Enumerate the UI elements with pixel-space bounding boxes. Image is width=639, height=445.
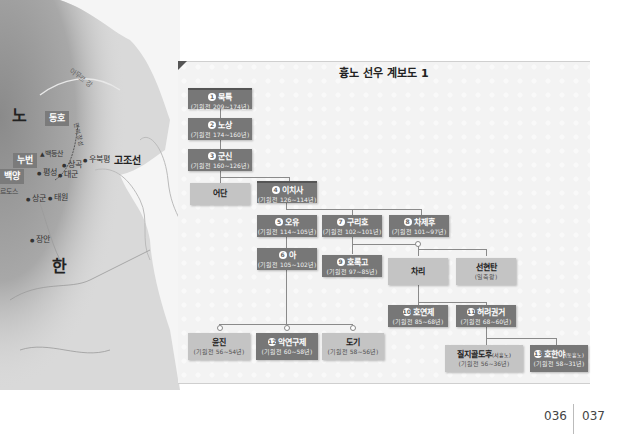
- map-label-ubukpyeong: 우북평: [83, 153, 110, 164]
- node-modu[interactable]: 1묵특 (기원전 209~174년): [188, 88, 252, 109]
- node-name: 군신: [218, 152, 232, 161]
- node-name: 묵특: [218, 93, 232, 102]
- node-name: 윤진: [188, 333, 250, 348]
- map-label-jangan: 장안: [30, 233, 50, 244]
- node-years: (기원전 58~56년): [322, 348, 384, 356]
- node-name: 호한야: [544, 350, 565, 359]
- node-gunsin[interactable]: 3군신 (기원전 160~126년): [188, 149, 252, 171]
- node-yunjin[interactable]: 윤진 (기원전 56~54년): [188, 333, 250, 360]
- page-number-left: 036: [544, 409, 567, 423]
- node-horokgo[interactable]: 9호록고 (기원전 97~85년): [322, 255, 382, 277]
- node-name: 노상: [218, 121, 232, 130]
- node-name: 차리: [388, 258, 448, 285]
- connector: [352, 244, 418, 245]
- node-dogi[interactable]: 도기 (기원전 58~56년): [322, 333, 384, 360]
- node-hoyeonje[interactable]: 10호연제 (기원전 85~68년): [388, 305, 448, 327]
- number-badge: 13: [534, 350, 542, 358]
- page-separator: [573, 404, 574, 434]
- connector: [286, 269, 287, 324]
- number-badge: 11: [467, 308, 475, 316]
- number-badge: 1: [208, 93, 216, 101]
- map-chip-baekyang: 백양: [0, 169, 24, 184]
- node-chari[interactable]: 차리: [388, 258, 448, 285]
- panel-top-border: [178, 61, 590, 62]
- connector: [418, 302, 486, 303]
- node-seonhyeontan[interactable]: 선현탄 (일축왕): [456, 258, 516, 285]
- node-years: (기원전 68~60년): [456, 318, 516, 326]
- node-name: 어단: [190, 183, 250, 205]
- node-years: (기원전 126~114년): [257, 196, 317, 204]
- node-suffix: (서흉노): [492, 352, 511, 358]
- node-name: 도기: [322, 333, 384, 348]
- node-name: 오유: [285, 218, 299, 227]
- number-badge: 12: [268, 338, 276, 346]
- node-name: 선현탄: [456, 258, 516, 273]
- node-name: 호연제: [413, 308, 434, 317]
- node-years: (기원전 160~126년): [188, 162, 252, 170]
- map-label-gojoseon: 고조선: [114, 152, 141, 167]
- node-years: (기원전 114~105년): [257, 228, 317, 236]
- map-label-pyeongseong: 평성: [37, 166, 57, 177]
- connector: [418, 246, 419, 256]
- connector: [486, 325, 487, 345]
- chart-title: 흉노 선우 계보도 1: [178, 64, 590, 80]
- node-years: (기원전 209~174년): [188, 103, 252, 111]
- node-years: (기원전 101~97년): [389, 228, 449, 236]
- map-label-baekdeungsan: 백등산: [40, 148, 63, 158]
- connector: [556, 338, 557, 345]
- panel-bottom-border: [178, 383, 590, 384]
- connector: [286, 209, 422, 210]
- map-label-xiongnu: 노: [12, 102, 27, 126]
- map-chip-donghu: 동호: [45, 111, 69, 126]
- node-name: 차제후: [414, 218, 435, 227]
- node-ichisa[interactable]: 4이치사 (기원전 126~114년): [257, 181, 317, 203]
- map-label-daegun: 대군: [58, 168, 78, 179]
- connector: [486, 249, 487, 256]
- node-name: 질지골도후: [457, 350, 492, 359]
- node-name: 악연구제: [278, 338, 306, 347]
- map-label-ordos: 르도스: [0, 186, 18, 196]
- node-years: (기원전 58~31년): [530, 360, 588, 368]
- node-name: 구리호: [347, 218, 368, 227]
- node-name: 아: [289, 251, 296, 260]
- number-badge: 5: [275, 218, 283, 226]
- node-name: 허려권거: [477, 308, 505, 317]
- node-chajehu[interactable]: 8차제후 (기원전 101~97년): [389, 215, 449, 237]
- connector-node: [284, 325, 290, 331]
- node-nosang[interactable]: 2노상 (기원전 174~160년): [188, 118, 252, 140]
- number-badge: 6: [279, 251, 287, 259]
- connector: [486, 338, 556, 339]
- node-gurihu[interactable]: 7구리호 (기원전 102~101년): [322, 215, 382, 237]
- node-a[interactable]: 6아 (기원전 105~102년): [257, 248, 317, 270]
- node-hohanya[interactable]: 13호한야(동흉노) (기원전 58~31년): [530, 345, 588, 372]
- node-name: 이치사: [282, 186, 303, 195]
- map-chip-nubeon: 누번: [13, 153, 37, 168]
- page-number-right: 037: [582, 409, 605, 423]
- map-label-han: 한: [52, 253, 67, 277]
- node-heoryeogwongeo[interactable]: 11허려권거 (기원전 68~60년): [456, 305, 516, 327]
- node-years: (기원전 105~102년): [257, 261, 317, 269]
- number-badge: 10: [403, 308, 411, 316]
- number-badge: 8: [404, 218, 412, 226]
- number-badge: 4: [272, 186, 280, 194]
- connector-node: [217, 325, 223, 331]
- node-years: (기원전 85~68년): [388, 318, 448, 326]
- node-eodan[interactable]: 어단: [190, 183, 250, 205]
- node-years: (일축왕): [456, 273, 516, 281]
- node-suffix: (동흉노): [565, 352, 584, 358]
- connector-node: [350, 325, 356, 331]
- connector: [220, 177, 290, 178]
- node-years: (기원전 97~85년): [322, 268, 382, 276]
- node-years: (기원전 56~54년): [188, 348, 250, 356]
- node-years: (기원전 56~36년): [445, 360, 523, 368]
- node-jijigoldohu[interactable]: 질지골도후(서흉노) (기원전 56~36년): [445, 345, 523, 372]
- number-badge: 7: [337, 218, 345, 226]
- connector: [220, 139, 221, 149]
- historical-map: 아무르 강 노 동호 만리장성 백등산 누번 상곡 우북평 고조선 대군 백양 …: [0, 0, 180, 390]
- node-name: 호록고: [347, 258, 368, 267]
- number-badge: 9: [337, 258, 345, 266]
- node-oyu[interactable]: 5오유 (기원전 114~105년): [257, 215, 317, 237]
- node-years: (기원전 60~58년): [256, 348, 318, 356]
- number-badge: 3: [208, 152, 216, 160]
- node-akyeongguje[interactable]: 12악연구제 (기원전 60~58년): [256, 333, 318, 360]
